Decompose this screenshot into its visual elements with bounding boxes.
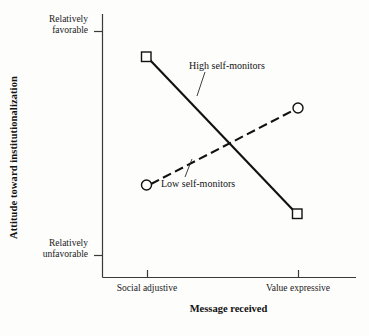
marker-low-value-expressive	[293, 103, 303, 113]
leader-line-low-self-monitors	[185, 159, 192, 177]
series-line-low-self-monitors	[151, 110, 294, 184]
plot-area	[0, 0, 369, 336]
series-line-high-self-monitors	[150, 60, 294, 211]
marker-high-value-expressive	[293, 209, 303, 219]
marker-high-social-adjustive	[142, 52, 152, 62]
chart-figure: Attitude toward institutionalization Rel…	[0, 0, 369, 336]
marker-low-social-adjustive	[142, 180, 152, 190]
leader-line-high-self-monitors	[197, 72, 205, 96]
